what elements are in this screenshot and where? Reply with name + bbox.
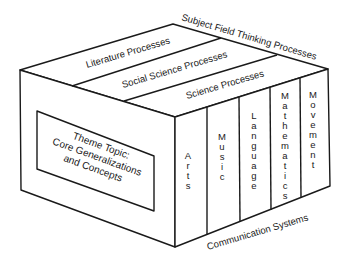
column-divider-3 — [270, 87, 271, 210]
column-letter: e — [251, 180, 256, 191]
column-divider-4 — [300, 78, 301, 198]
column-letter: c — [220, 171, 225, 182]
column-letter: t — [312, 159, 315, 170]
box-diagram: Subject Field Thinking Processes Literat… — [0, 0, 347, 263]
column-letter: s — [186, 180, 191, 191]
column-language: Language — [251, 110, 257, 191]
column-divider-2 — [239, 97, 240, 222]
column-letter: s — [283, 190, 288, 201]
